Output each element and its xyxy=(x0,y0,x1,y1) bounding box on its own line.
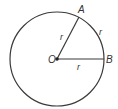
label-o: O xyxy=(48,54,56,65)
label-b: B xyxy=(106,54,113,65)
label-radius-oa: r xyxy=(60,32,64,42)
label-radius-ob: r xyxy=(77,62,81,72)
label-a: A xyxy=(77,4,85,15)
radian-circle-diagram: O A B r r r xyxy=(0,0,118,109)
label-arc-ab: r xyxy=(99,27,103,37)
